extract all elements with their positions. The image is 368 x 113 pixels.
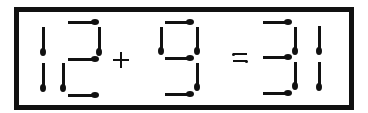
match-head [186, 91, 194, 97]
match-head [186, 19, 194, 25]
match-head [316, 47, 322, 55]
match-head [91, 92, 99, 98]
match-head [292, 82, 298, 90]
match-head [284, 90, 292, 96]
match-head [96, 48, 102, 56]
match-head [194, 47, 200, 55]
match-head [316, 83, 322, 91]
match-head [91, 56, 99, 62]
match-head [186, 55, 194, 61]
plus-sign [113, 52, 129, 68]
match-head [40, 48, 46, 56]
match-head [60, 84, 66, 92]
match-head [91, 19, 99, 25]
match-head [292, 47, 298, 55]
equals-sign [232, 52, 248, 64]
match-head [284, 19, 292, 25]
match-head [158, 47, 164, 55]
match-head [194, 83, 200, 91]
match-head [40, 84, 46, 92]
match-head [284, 54, 292, 60]
